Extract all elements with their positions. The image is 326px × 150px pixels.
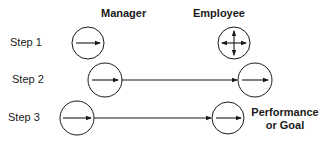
step2-manager-circle-icon [88, 63, 122, 97]
goal-line-1: Performance [249, 106, 321, 119]
step2-employee-circle-icon [238, 63, 272, 97]
step-1-label: Step 1 [10, 37, 42, 48]
performance-goal-label: Performance or Goal [249, 106, 321, 132]
manager-column-header: Manager [101, 8, 146, 19]
step-2-label: Step 2 [12, 74, 44, 85]
step3-manager-circle-icon [60, 101, 94, 135]
step1-manager-circle-icon [72, 27, 104, 59]
alignment-diagram: Manager Employee Step 1 Step 2 Step 3 Pe… [0, 0, 326, 150]
step3-goal-circle-icon [212, 102, 244, 134]
step1-employee-four-way-arrows-icon [218, 27, 250, 59]
step-3-label: Step 3 [8, 112, 40, 123]
employee-column-header: Employee [193, 8, 245, 19]
goal-line-2: or Goal [249, 119, 321, 132]
